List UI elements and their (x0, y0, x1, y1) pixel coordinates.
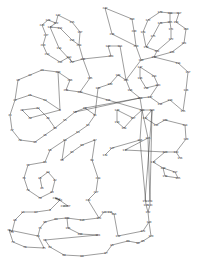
graph-node-label: 78 (7, 229, 11, 232)
graph-node-label: 212 (56, 198, 61, 201)
graph-node-label: 158 (144, 87, 149, 90)
graph-node-label: 249 (132, 30, 137, 33)
graph-node-label: 63 (76, 131, 80, 134)
graph-node-label: 101 (96, 234, 101, 237)
graph-node-label: 100 (78, 233, 83, 236)
graph-node-label: 79 (38, 197, 42, 200)
graph-node-label: 28 (18, 139, 22, 142)
graph-node-label: 117 (70, 61, 75, 64)
graph-node-label: 130 (168, 99, 173, 102)
graph-node-label: 152 (152, 56, 157, 59)
graph-edge (92, 160, 98, 178)
graph-node-label: 227 (44, 34, 49, 37)
graph-node-label: 122 (54, 22, 59, 25)
graph-node-label: 130 (147, 221, 152, 224)
graph-node-label: 59 (73, 111, 77, 114)
graph-node-label: 132 (154, 124, 159, 127)
graph-node-label: 204 (109, 55, 114, 58)
graph-edge (95, 88, 98, 115)
graph-node-label: 111 (97, 217, 102, 220)
graph-node-label: 117 (123, 149, 128, 152)
graph-node-label: 61 (93, 114, 97, 117)
graph-node-label: 135 (176, 177, 181, 180)
graph-edge (186, 72, 188, 90)
graph-node-label: 127 (148, 96, 153, 99)
graph-node-label: 167 (177, 12, 182, 15)
graph-node-label: 121 (141, 230, 146, 233)
graph-node-label: 90 (60, 159, 64, 162)
graph-node-label: 77 (11, 241, 15, 244)
graph-node-label: 14 (43, 99, 47, 102)
graph-node-label: 161 (182, 42, 187, 45)
graph-node-label: 122 (116, 235, 121, 238)
graph-node-label: 16 (28, 94, 32, 97)
graph-edge (85, 98, 140, 108)
graph-node-label: 220 (40, 24, 45, 27)
graph-node-label: 128 (138, 97, 143, 100)
graph-node-label: 146 (138, 77, 143, 80)
graph-edge (58, 72, 60, 110)
graph-edge (105, 8, 112, 34)
graph-edge (92, 140, 95, 160)
graph-edge (154, 57, 178, 63)
graph-node-label: 135 (181, 110, 186, 113)
graph-node-label: 117 (110, 147, 115, 150)
graph-node-label: 137 (173, 171, 178, 174)
graph-node-label: 134 (183, 124, 188, 127)
graph-edge (114, 214, 118, 236)
graph-node-label: 86 (40, 187, 44, 190)
graph-edge (59, 48, 72, 62)
graph-node-label: 201 (64, 89, 69, 92)
graph-node-label: 138 (176, 62, 181, 65)
graph-node-label: 170 (158, 11, 163, 14)
graph-edge (96, 178, 98, 192)
graph-edge (112, 140, 140, 148)
graph-node-label: 82 (53, 179, 57, 182)
graph-edge (118, 231, 143, 236)
graph-node-label: 80 (50, 191, 54, 194)
graph-node-label: 95 (141, 240, 145, 243)
graph-node-label: 185 (124, 79, 129, 82)
graph-node-label: 212 (58, 61, 63, 64)
graph-node-label: 27 (10, 129, 14, 132)
graph-node-label: 214 (86, 199, 91, 202)
graph-node-label: 32 (28, 74, 32, 77)
graph-node-label: 126 (46, 19, 51, 22)
graph-node-label: 90 (62, 254, 66, 257)
graph-node-label: 81 (21, 211, 25, 214)
graph-node-label: 71 (26, 164, 30, 167)
graph-diagram: 1271261222201231211252271071162191182382… (0, 0, 199, 262)
graph-node-label: 113 (67, 56, 72, 59)
graph-node-label: 179 (144, 46, 149, 49)
graph-edge (120, 46, 126, 80)
nodes: 1271261222201231211252271071162191182382… (7, 7, 190, 258)
graph-node-label: 181 (118, 45, 123, 48)
graph-node-label: 164 (174, 21, 179, 24)
graph-node-label: 62 (86, 124, 90, 127)
graph-node-label: 134 (174, 151, 179, 154)
graph-node-label: 38 (28, 117, 32, 120)
graph-node-label: 96 (43, 221, 47, 224)
graph-node-label: 46 (46, 117, 50, 120)
graph-node-label: 131 (158, 103, 163, 106)
graph-node-label: 110 (80, 219, 85, 222)
graph-node-label: 195 (88, 77, 93, 80)
graph-node-label: 151 (155, 50, 160, 53)
graph-node-label: 74 (36, 235, 40, 238)
graph-node-label: 139 (184, 138, 189, 141)
graph-edge (50, 27, 59, 48)
graph-node-label: 76 (22, 177, 26, 180)
graph-node-label: 60 (83, 107, 87, 110)
graph-node-label: 136 (178, 157, 183, 160)
graph-edge (143, 32, 146, 47)
graph-node-label: 217 (94, 191, 99, 194)
graph-node-label: 105 (66, 227, 71, 230)
graph-edge (10, 100, 15, 115)
graph-node-label: 23 (8, 114, 12, 117)
graph-edge (149, 222, 151, 236)
graph-node-label: 213 (45, 53, 50, 56)
graph-node-label: 34 (40, 69, 44, 72)
graph-edge (185, 125, 186, 139)
graph-node-label: 87 (104, 252, 108, 255)
graph-node-label: 218 (96, 177, 101, 180)
